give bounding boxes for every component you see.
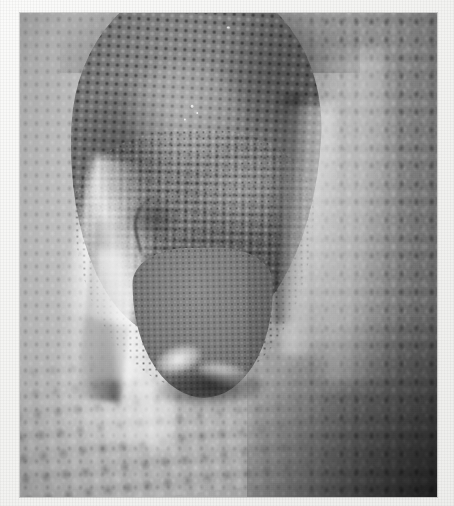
crown-speck-1	[191, 105, 194, 108]
screenshot-viewport: Black and white close-up photograph of a…	[0, 0, 454, 506]
crown-speck-3	[184, 118, 186, 120]
crown-speck-2	[196, 112, 198, 114]
photo-canvas	[20, 13, 437, 497]
photograph: Black and white close-up photograph of a…	[20, 13, 437, 497]
crown-speck-4	[227, 27, 230, 29]
corner-shading-bottom-right	[247, 317, 437, 497]
